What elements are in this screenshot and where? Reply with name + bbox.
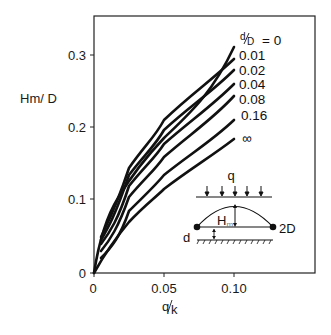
svg-text:D: D — [247, 36, 254, 47]
legend-title: d D = 0 — [240, 31, 281, 48]
chart-canvas: 0.3 0.2 0.1 0 Hm/ D 0 0.05 0.10 q k d D — [0, 0, 331, 335]
inset-height-label: Hm — [217, 213, 233, 229]
inset-load-label: q — [227, 168, 234, 183]
legend-infinity: ∞ — [242, 131, 252, 146]
y-tick-0.2: 0.2 — [68, 120, 86, 135]
y-tick-0.1: 0.1 — [68, 192, 86, 207]
legend-0.04: 0.04 — [239, 77, 266, 92]
svg-text:d: d — [240, 31, 246, 42]
legend-0.02: 0.02 — [239, 63, 265, 78]
x-axis-label: q k — [162, 299, 178, 317]
x-tick-0: 0 — [89, 281, 96, 296]
ground-hatch — [197, 240, 271, 244]
x-axis: 0 0.05 0.10 q k — [89, 273, 246, 317]
inset-span-label: 2D — [279, 221, 296, 236]
x-tick-0.10: 0.10 — [221, 281, 246, 296]
curves — [94, 47, 234, 273]
inset-diagram: q Hm 2D d — [183, 168, 296, 245]
y-axis: 0.3 0.2 0.1 0 Hm/ D — [20, 48, 94, 281]
right-support — [270, 224, 277, 231]
y-axis-label: Hm/ D — [20, 91, 57, 106]
y-tick-0.3: 0.3 — [68, 48, 86, 63]
legend: d D = 0 0.01 0.02 0.04 0.08 0.16 ∞ — [239, 31, 281, 146]
load-arrows — [205, 186, 263, 196]
y-tick-0: 0 — [79, 266, 86, 281]
svg-text:k: k — [171, 302, 178, 317]
left-support — [194, 224, 201, 231]
legend-0.16: 0.16 — [241, 108, 267, 123]
x-tick-0.05: 0.05 — [151, 281, 176, 296]
svg-text:= 0: = 0 — [262, 33, 281, 48]
inset-gap-label: d — [183, 230, 190, 245]
legend-0.08: 0.08 — [239, 92, 265, 107]
legend-0.01: 0.01 — [239, 48, 265, 63]
